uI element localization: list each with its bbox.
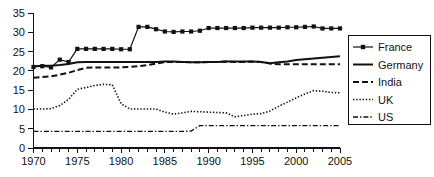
data-point-marker xyxy=(277,26,281,30)
data-point-marker xyxy=(58,58,62,62)
y-tick-label: 5 xyxy=(19,123,25,135)
data-point-marker xyxy=(154,27,158,31)
x-tick-label: 1995 xyxy=(240,155,264,167)
data-point-marker xyxy=(172,30,176,34)
y-tick-label: 30 xyxy=(13,26,25,38)
data-point-marker xyxy=(207,26,211,30)
data-point-marker xyxy=(233,26,237,30)
data-point-marker xyxy=(329,26,333,30)
data-point-marker xyxy=(128,47,132,51)
x-tick-label: 1980 xyxy=(109,155,133,167)
x-tick-label: 1970 xyxy=(21,155,45,167)
y-tick-label: 35 xyxy=(13,7,25,19)
y-tick-label: 25 xyxy=(13,46,25,58)
data-point-marker xyxy=(259,26,263,30)
data-point-marker xyxy=(84,47,88,51)
legend-label: UK xyxy=(378,94,394,106)
data-point-marker xyxy=(294,25,298,29)
data-point-marker xyxy=(312,24,316,28)
x-tick-label: 1975 xyxy=(65,155,89,167)
data-point-marker xyxy=(101,47,105,51)
data-point-marker xyxy=(250,26,254,30)
data-point-marker xyxy=(215,26,219,30)
data-point-marker xyxy=(320,26,324,30)
line-chart-figure: 05101520253035 1970197519801985199019952… xyxy=(0,0,434,177)
data-point-marker xyxy=(163,29,167,33)
data-point-marker xyxy=(93,47,97,51)
data-point-marker xyxy=(303,25,307,29)
y-tick-label: 10 xyxy=(13,103,25,115)
data-point-marker xyxy=(145,25,149,29)
chart-canvas: 05101520253035 1970197519801985199019952… xyxy=(0,0,434,177)
x-tick-label: 2005 xyxy=(328,155,352,167)
legend-label: US xyxy=(378,111,393,123)
data-point-marker xyxy=(198,29,202,33)
x-tick-label: 1990 xyxy=(196,155,220,167)
data-point-marker xyxy=(75,47,79,51)
data-point-marker xyxy=(189,29,193,33)
data-point-marker xyxy=(268,26,272,30)
legend-label: India xyxy=(378,76,403,88)
x-tick-label: 1985 xyxy=(153,155,177,167)
legend-marker xyxy=(361,45,365,49)
data-point-marker xyxy=(110,47,114,51)
y-tick-label: 0 xyxy=(19,142,25,154)
data-point-marker xyxy=(338,26,342,30)
data-point-marker xyxy=(224,26,228,30)
data-point-marker xyxy=(242,26,246,30)
data-point-marker xyxy=(119,47,123,51)
data-point-marker xyxy=(285,25,289,29)
data-point-marker xyxy=(136,25,140,29)
legend-label: Germany xyxy=(378,59,424,71)
legend-label: France xyxy=(378,41,412,53)
x-tick-label: 2000 xyxy=(284,155,308,167)
data-point-marker xyxy=(180,29,184,33)
y-tick-label: 20 xyxy=(13,65,25,77)
y-tick-label: 15 xyxy=(13,84,25,96)
